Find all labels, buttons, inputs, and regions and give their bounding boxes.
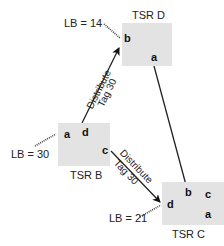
tsr-c-port-a: a [205, 209, 211, 220]
tsr-b-port-c: c [102, 145, 108, 156]
lb-leader-b [35, 134, 56, 146]
tsr-b-label: TSR B [70, 170, 102, 181]
tsr-c-port-b: b [185, 187, 192, 198]
tsr-d-port-a: a [151, 52, 157, 63]
diagram: TSR D b a LB = 14 TSR B a d c LB = 30 TS… [0, 0, 224, 246]
tsr-b-lb: LB = 30 [11, 149, 49, 160]
lb-leader-d [104, 24, 120, 38]
tsr-c-port-c: c [205, 189, 211, 200]
tsr-c-label: TSR C [172, 229, 205, 240]
tsr-d-label: TSR D [132, 10, 165, 21]
tsr-c-lb: LB = 21 [109, 213, 147, 224]
tsr-d-box [122, 23, 172, 66]
tsr-c-port-d: d [167, 199, 174, 210]
edge-d-to-c-line [154, 66, 186, 185]
tsr-d-port-b: b [124, 33, 131, 44]
tsr-b-port-a: a [64, 129, 70, 140]
tsr-d-lb: LB = 14 [64, 18, 102, 29]
tsr-b-port-d: d [82, 127, 89, 138]
